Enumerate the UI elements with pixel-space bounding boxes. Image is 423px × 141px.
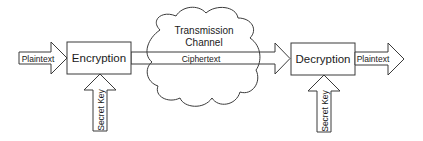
- encryption-label: Encryption: [72, 52, 126, 64]
- plaintext-input-label: Plaintext: [22, 54, 55, 64]
- decryption-box: Decryption: [291, 43, 355, 75]
- plaintext-input-arrow: Plaintext: [19, 42, 67, 74]
- secret-key-arrow-decryption: Secret Key: [308, 75, 340, 132]
- secret-key-label-encryption: Secret Key: [96, 88, 106, 130]
- secret-key-arrow-encryption: Secret Key: [84, 74, 116, 131]
- encryption-box: Encryption: [67, 42, 131, 74]
- channel-label-line1: Transmission: [174, 25, 233, 36]
- ciphertext-label: Ciphertext: [182, 54, 221, 64]
- plaintext-output-label: Plaintext: [357, 54, 390, 64]
- plaintext-output-arrow: Plaintext: [355, 43, 404, 75]
- decryption-label: Decryption: [296, 53, 351, 65]
- secret-key-label-decryption: Secret Key: [320, 89, 330, 131]
- channel-label-line2: Channel: [185, 37, 222, 48]
- encryption-diagram: Transmission Channel Ciphertext Plaintex…: [0, 0, 423, 141]
